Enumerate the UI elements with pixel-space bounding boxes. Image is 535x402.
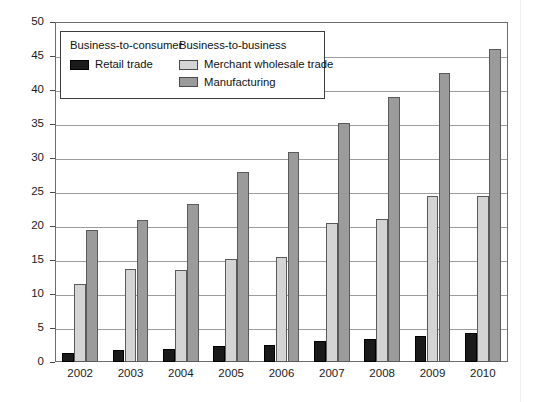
legend-group-title-b2c: Business-to-consumer — [70, 39, 182, 51]
x-tick-label: 2009 — [420, 367, 446, 379]
x-tick-label: 2004 — [168, 367, 194, 379]
y-axis: 05101520253035404550 — [0, 0, 55, 402]
legend-entry-retail-trade: Retail trade — [70, 58, 182, 70]
x-tick-label: 2010 — [470, 367, 496, 379]
bar-chart: 05101520253035404550 2002200320042005200… — [0, 0, 535, 402]
y-tick-mark — [50, 22, 55, 23]
y-tick-mark — [50, 56, 55, 57]
x-tick-label: 2002 — [67, 367, 93, 379]
legend-label-merchant-wholesale-trade: Merchant wholesale trade — [204, 58, 333, 70]
legend-swatch-wholesale-icon — [179, 60, 198, 70]
y-tick-label: 15 — [31, 254, 44, 266]
y-tick-label: 30 — [31, 152, 44, 164]
y-tick-label: 5 — [38, 322, 44, 334]
y-tick-label: 50 — [31, 16, 44, 28]
y-tick-label: 20 — [31, 220, 44, 232]
y-tick-mark — [50, 362, 55, 363]
gridline — [56, 261, 507, 262]
x-tick-label: 2006 — [269, 367, 295, 379]
x-tick-label: 2007 — [319, 367, 345, 379]
y-tick-label: 0 — [38, 356, 44, 368]
legend-label-manufacturing: Manufacturing — [204, 76, 276, 88]
y-tick-mark — [50, 124, 55, 125]
x-axis: 200220032004200520062007200820092010 — [55, 364, 508, 388]
y-tick-label: 45 — [31, 50, 44, 62]
y-tick-label: 40 — [31, 84, 44, 96]
gridline — [56, 193, 507, 194]
y-tick-mark — [50, 158, 55, 159]
y-tick-mark — [50, 328, 55, 329]
y-tick-mark — [50, 192, 55, 193]
legend-swatch-manufacturing-icon — [179, 77, 198, 87]
x-tick-label: 2005 — [218, 367, 244, 379]
x-tick-label: 2003 — [118, 367, 144, 379]
legend-entry-merchant-wholesale-trade: Merchant wholesale trade — [179, 58, 333, 70]
y-tick-label: 35 — [31, 118, 44, 130]
gridline — [56, 227, 507, 228]
gridline — [56, 329, 507, 330]
gridline — [56, 125, 507, 126]
y-tick-label: 25 — [31, 186, 44, 198]
gridline — [56, 159, 507, 160]
legend-group-business-to-business: Business-to-business Merchant wholesale … — [179, 39, 333, 93]
legend-label-retail-trade: Retail trade — [95, 58, 153, 70]
y-tick-mark — [50, 294, 55, 295]
y-tick-mark — [50, 90, 55, 91]
y-tick-mark — [50, 226, 55, 227]
legend-group-title-b2b: Business-to-business — [179, 39, 333, 51]
y-tick-label: 10 — [31, 288, 44, 300]
scan-artifact-line — [520, 0, 521, 402]
y-tick-mark — [50, 260, 55, 261]
legend-swatch-retail-icon — [70, 60, 89, 70]
legend-group-business-to-consumer: Business-to-consumer Retail trade — [70, 39, 182, 76]
gridline — [56, 295, 507, 296]
legend-entry-manufacturing: Manufacturing — [179, 76, 333, 88]
x-tick-label: 2008 — [369, 367, 395, 379]
legend: Business-to-consumer Retail trade Busine… — [60, 31, 325, 99]
